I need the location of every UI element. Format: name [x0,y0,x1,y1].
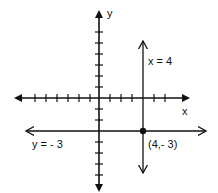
y-axis-label: y [107,7,113,19]
x-axis [18,94,186,102]
intersection-point [140,128,146,134]
coordinate-plane: y x x = 4 y = - 3 (4,- 3) [0,0,218,193]
point-label: (4,- 3) [148,138,177,150]
x-axis-label: x [182,105,188,117]
horizontal-line-label: y = - 3 [32,138,63,150]
y-axis [95,14,103,188]
vertical-line-label: x = 4 [148,55,172,67]
